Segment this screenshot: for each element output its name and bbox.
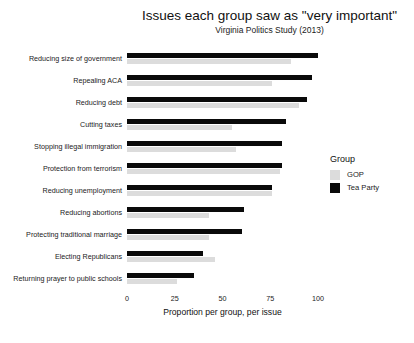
bar-tea-party <box>127 229 242 234</box>
legend-label: Tea Party <box>347 183 379 193</box>
y-axis-label: Reducing unemployment <box>0 186 122 195</box>
bar-tea-party <box>127 185 272 190</box>
y-axis-label: Reducing abortions <box>0 208 122 217</box>
legend-title: Group <box>330 153 410 165</box>
bar-gop <box>127 257 215 262</box>
bar-group <box>127 97 318 108</box>
bar-group <box>127 185 318 196</box>
bar-group <box>127 229 318 240</box>
x-axis-tick: 75 <box>266 294 274 303</box>
chart-subtitle: Virginia Politics Study (2013) <box>127 25 412 36</box>
bar-tea-party <box>127 119 286 124</box>
bar-gop <box>127 59 291 64</box>
bar-group <box>127 75 318 86</box>
bar-group <box>127 207 318 218</box>
bar-tea-party <box>127 163 282 168</box>
legend-swatch-icon <box>330 170 340 180</box>
bar-gop <box>127 279 177 284</box>
bar-group <box>127 251 318 262</box>
bar-tea-party <box>127 273 194 278</box>
bar-gop <box>127 103 299 108</box>
bar-group <box>127 273 318 284</box>
bar-gop <box>127 125 232 130</box>
chart-title: Issues each group saw as "very important… <box>127 8 412 24</box>
bar-group <box>127 53 318 64</box>
legend-label: GOP <box>347 170 364 180</box>
x-axis-tick: 25 <box>171 294 179 303</box>
bar-gop <box>127 147 236 152</box>
y-axis-label: Stopping illegal immigration <box>0 142 122 151</box>
x-axis-tick: 100 <box>312 294 324 303</box>
bar-tea-party <box>127 75 312 80</box>
plot-area <box>127 47 318 290</box>
y-axis-label: Returning prayer to public schools <box>0 274 122 283</box>
bar-gop <box>127 235 209 240</box>
bar-tea-party <box>127 53 318 58</box>
bar-tea-party <box>127 251 203 256</box>
y-axis-label: Reducing size of government <box>0 54 122 63</box>
x-axis-label: Proportion per group, per issue <box>127 307 318 318</box>
y-axis-label: Electing Republicans <box>0 252 122 261</box>
bar-gop <box>127 169 280 174</box>
x-axis-ticks: 0255075100 <box>127 290 318 308</box>
bar-gop <box>127 213 209 218</box>
bar-group <box>127 141 318 152</box>
bar-group <box>127 163 318 174</box>
chart-header: Issues each group saw as "very important… <box>127 8 412 36</box>
y-axis-category-labels: Reducing size of governmentRepealing ACA… <box>0 47 122 290</box>
legend-item[interactable]: Tea Party <box>330 181 410 194</box>
bar-chart: Issues each group saw as "very important… <box>0 0 414 343</box>
y-axis-label: Protecting traditional marriage <box>0 230 122 239</box>
legend-swatch-icon <box>330 183 340 193</box>
bar-group <box>127 119 318 130</box>
x-axis-tick: 0 <box>125 294 129 303</box>
y-axis-label: Reducing debt <box>0 98 122 107</box>
bar-gop <box>127 81 272 86</box>
bar-tea-party <box>127 97 307 102</box>
bar-tea-party <box>127 207 244 212</box>
y-axis-label: Repealing ACA <box>0 76 122 85</box>
legend: Group GOPTea Party <box>330 153 410 194</box>
bar-tea-party <box>127 141 282 146</box>
x-axis-tick: 50 <box>219 294 227 303</box>
legend-item[interactable]: GOP <box>330 168 410 181</box>
legend-items: GOPTea Party <box>330 168 410 194</box>
bar-gop <box>127 191 272 196</box>
y-axis-label: Protection from terrorism <box>0 164 122 173</box>
y-axis-label: Cutting taxes <box>0 120 122 129</box>
